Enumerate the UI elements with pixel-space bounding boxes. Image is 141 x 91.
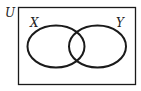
venn-diagram: U X Y	[0, 0, 141, 91]
set-y-ellipse	[69, 26, 126, 68]
set-y-label: Y	[116, 16, 125, 30]
set-x-label: X	[29, 16, 39, 30]
universe-label: U	[5, 6, 16, 20]
